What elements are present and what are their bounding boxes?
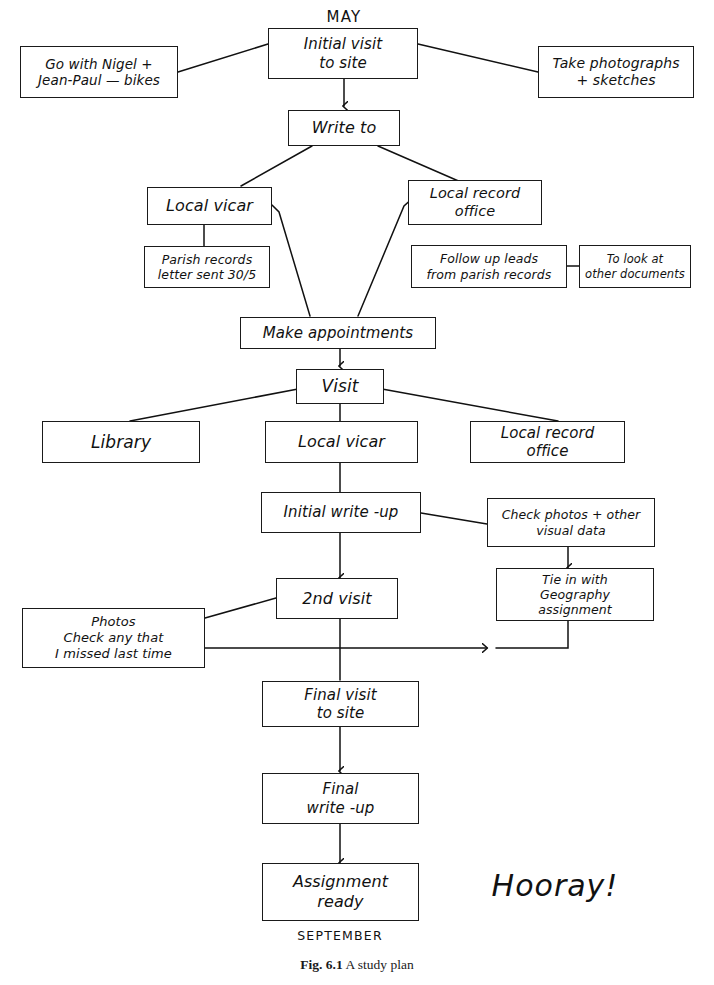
node-library-label: Library [87, 432, 155, 453]
node-local-vicar-visit-label: Local vicar [294, 432, 389, 452]
connector-initialwriteup-checkphotos [421, 513, 487, 524]
node-check-photos[interactable]: Check photos + other visual data [487, 498, 655, 547]
node-library[interactable]: Library [42, 421, 200, 463]
node-follow-up-leads-label: Follow up leads from parish records [423, 251, 556, 282]
node-local-record-office-write-label: Local record office [426, 185, 525, 220]
node-check-photos-label: Check photos + other visual data [498, 507, 645, 538]
connector-gowith-initialvisit [178, 44, 268, 72]
node-tie-in-geography[interactable]: Tie in with Geography assignment [496, 568, 654, 621]
node-final-visit-to-site-label: Final visit to site [300, 686, 380, 723]
connector-visit-localrecordoffice [382, 389, 558, 421]
node-parish-records[interactable]: Parish records letter sent 30/5 [144, 246, 270, 288]
node-other-documents-label: To look at other documents [581, 252, 689, 280]
figure-number: Fig. 6.1 [300, 957, 342, 972]
connector-photos-secondvisit [205, 598, 276, 618]
node-initial-visit-to-site-label: Initial visit to site [300, 35, 386, 72]
node-local-vicar-visit[interactable]: Local vicar [265, 421, 418, 463]
node-second-visit-label: 2nd visit [298, 589, 375, 609]
node-local-record-office-visit-label: Local record office [497, 424, 599, 461]
node-make-appointments[interactable]: Make appointments [240, 317, 436, 349]
node-local-vicar-write[interactable]: Local vicar [147, 187, 272, 225]
node-assignment-ready-label: Assignment ready [289, 872, 392, 911]
start-month-label: MAY [284, 8, 404, 26]
figure-caption: Fig. 6.1 A study plan [0, 957, 714, 973]
node-visit-label: Visit [317, 376, 362, 397]
node-local-record-office-write[interactable]: Local record office [408, 180, 542, 225]
node-parish-records-label: Parish records letter sent 30/5 [154, 252, 260, 283]
connector-tiein-downleg [496, 621, 568, 648]
node-final-visit-to-site[interactable]: Final visit to site [262, 681, 419, 727]
figure-title: A study plan [345, 957, 413, 972]
node-initial-visit-to-site[interactable]: Initial visit to site [268, 28, 418, 79]
node-go-with-nigel[interactable]: Go with Nigel + Jean-Paul — bikes [20, 46, 178, 98]
connector-initialvisit-takephotos [418, 44, 538, 72]
node-second-visit[interactable]: 2nd visit [276, 578, 398, 619]
study-plan-diagram: MAY Go with Nigel + Jean-Paul — bikes In… [0, 0, 714, 985]
end-month-label: SEPTEMBER [260, 928, 420, 943]
node-other-documents[interactable]: To look at other documents [579, 245, 691, 288]
connector-visit-library [130, 389, 298, 421]
node-photos-check-label: Photos Check any that I missed last time [51, 614, 176, 662]
node-local-record-office-visit[interactable]: Local record office [470, 421, 625, 463]
connector-writeto-localvicar [241, 146, 312, 186]
node-visit[interactable]: Visit [296, 369, 384, 404]
node-write-to-label: Write to [308, 118, 381, 138]
node-take-photographs-label: Take photographs + sketches [548, 55, 683, 89]
node-final-write-up[interactable]: Final write -up [262, 773, 419, 824]
node-go-with-nigel-label: Go with Nigel + Jean-Paul — bikes [34, 56, 164, 89]
node-initial-write-up[interactable]: Initial write -up [261, 492, 421, 533]
node-initial-write-up-label: Initial write -up [280, 503, 403, 521]
node-take-photographs[interactable]: Take photographs + sketches [538, 46, 694, 98]
node-assignment-ready[interactable]: Assignment ready [262, 863, 419, 921]
node-tie-in-geography-label: Tie in with Geography assignment [534, 572, 616, 618]
connector-localvicar-makeappointments [272, 205, 310, 316]
node-final-write-up-label: Final write -up [303, 780, 379, 817]
node-local-vicar-write-label: Local vicar [162, 196, 257, 216]
node-photos-check[interactable]: Photos Check any that I missed last time [22, 608, 205, 668]
node-follow-up-leads[interactable]: Follow up leads from parish records [411, 245, 567, 288]
node-make-appointments-label: Make appointments [259, 324, 418, 342]
hooray-annotation: Hooray! [460, 868, 650, 903]
node-write-to[interactable]: Write to [288, 110, 400, 146]
connector-localrecordoffice-makeappointments [358, 197, 414, 316]
